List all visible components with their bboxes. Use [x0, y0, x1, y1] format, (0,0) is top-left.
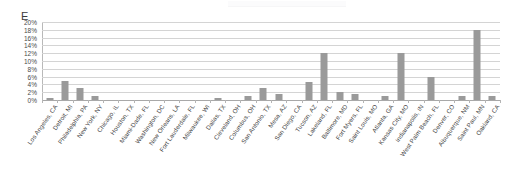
bar-slot: [164, 22, 179, 100]
bar-series: [42, 22, 500, 100]
bar-slot: [439, 22, 454, 100]
bar-slot: [454, 22, 469, 100]
bar-slot: [195, 22, 210, 100]
bar: [77, 88, 84, 100]
bar-slot: [363, 22, 378, 100]
bar-slot: [424, 22, 439, 100]
bar-chart: E 0%2%4%6%8%10%12%14%16%18%20% Los Angel…: [0, 0, 513, 181]
bar-slot: [485, 22, 500, 100]
y-axis-tick-label: 0%: [28, 97, 37, 104]
bar: [260, 88, 267, 100]
bar-slot: [271, 22, 286, 100]
bar-slot: [149, 22, 164, 100]
bar-slot: [134, 22, 149, 100]
bar-slot: [408, 22, 423, 100]
bar: [321, 53, 328, 100]
bar-slot: [118, 22, 133, 100]
bar: [61, 81, 68, 101]
bar-slot: [256, 22, 271, 100]
bar: [336, 92, 343, 100]
bar-slot: [378, 22, 393, 100]
bar-slot: [225, 22, 240, 100]
bar: [397, 53, 404, 100]
bar-slot: [103, 22, 118, 100]
bar-slot: [317, 22, 332, 100]
y-axis-tick-label: 16%: [24, 34, 37, 41]
y-axis-tick-label: 2%: [28, 89, 37, 96]
y-axis-tick-label: 6%: [28, 73, 37, 80]
bar-slot: [179, 22, 194, 100]
bar-slot: [332, 22, 347, 100]
y-axis-tick-label: 18%: [24, 26, 37, 33]
bar-slot: [286, 22, 301, 100]
bar-slot: [469, 22, 484, 100]
bar-slot: [347, 22, 362, 100]
y-axis-tick-label: 12%: [24, 50, 37, 57]
y-axis-labels: 0%2%4%6%8%10%12%14%16%18%20%: [0, 22, 40, 100]
y-axis-tick-label: 14%: [24, 42, 37, 49]
bar-slot: [393, 22, 408, 100]
bar: [306, 82, 313, 100]
y-axis-tick-label: 20%: [24, 19, 37, 26]
bar-slot: [210, 22, 225, 100]
bar-slot: [240, 22, 255, 100]
x-axis-tick: [500, 100, 501, 103]
bar: [428, 77, 435, 100]
top-header-strip: [228, 1, 346, 7]
y-axis-tick-label: 4%: [28, 81, 37, 88]
bar: [474, 30, 481, 100]
plot-area: [42, 22, 500, 100]
bar-slot: [42, 22, 57, 100]
bar-slot: [73, 22, 88, 100]
bar-slot: [302, 22, 317, 100]
x-axis-category-labels: Los Angeles, CADetroit, MIPhiladelphia, …: [42, 103, 500, 181]
bar-slot: [88, 22, 103, 100]
y-axis-tick-label: 8%: [28, 65, 37, 72]
bar-slot: [57, 22, 72, 100]
y-axis-tick-label: 10%: [24, 58, 37, 65]
